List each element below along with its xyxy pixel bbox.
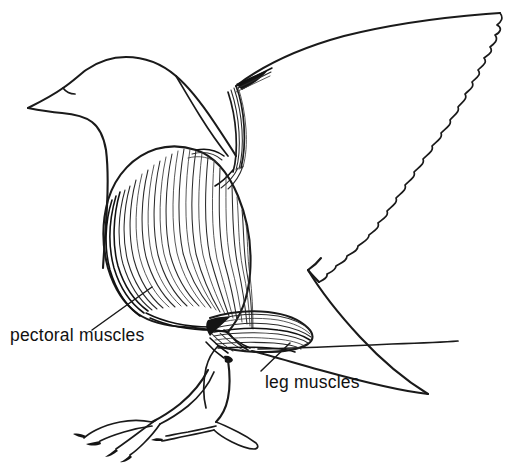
diagram-background (0, 0, 514, 468)
label-leg-muscles: leg muscles (265, 372, 360, 392)
label-pectoral-muscles: pectoral muscles (10, 325, 145, 345)
diagram-canvas: pectoral muscles leg muscles (0, 0, 514, 468)
bird-muscle-diagram: pectoral muscles leg muscles (0, 0, 514, 468)
